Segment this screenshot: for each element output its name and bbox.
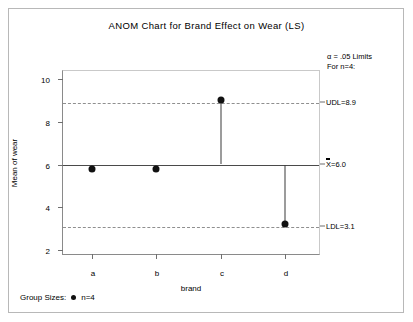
upper-decision-limit-line (63, 103, 319, 104)
x-tick-d: d (285, 254, 286, 259)
y-tick-label-8: 8 (46, 118, 50, 127)
chart-title: ANOM Chart for Brand Effect on Wear (LS) (0, 20, 413, 31)
y-tick-10: 10 (58, 79, 63, 80)
ldl-tickmark (320, 225, 325, 226)
y-tick-8: 8 (58, 122, 63, 123)
y-tick-label-10: 10 (41, 76, 50, 85)
data-point-b (153, 165, 160, 172)
y-tick-label-4: 4 (46, 204, 50, 213)
data-point-d (282, 220, 289, 227)
x-tick-label-a: a (91, 269, 95, 278)
group-size-value: n=4 (81, 293, 95, 302)
udl-tickmark (320, 101, 325, 102)
group-sizes-legend: Group Sizes: n=4 (20, 293, 95, 302)
center-line-value: =6.0 (331, 160, 346, 169)
ldl-label: LDL=3.1 (326, 221, 355, 230)
y-tick-label-2: 2 (46, 247, 50, 256)
y-axis-title: Mean of wear (10, 139, 19, 187)
anom-chart-screenshot: ANOM Chart for Brand Effect on Wear (LS)… (0, 0, 413, 322)
stem-d (285, 165, 286, 224)
alpha-limits-line-1: α = .05 Limits (327, 52, 372, 62)
stem-c (221, 100, 222, 164)
lower-decision-limit-line (63, 227, 319, 228)
y-tick-label-6: 6 (46, 161, 50, 170)
group-size-dot-icon (71, 295, 76, 300)
data-point-c (218, 97, 225, 104)
x-tick-a: a (92, 254, 93, 259)
data-point-a (89, 165, 96, 172)
group-sizes-label: Group Sizes: (20, 293, 66, 302)
alpha-limits-line-2: For n=4: (327, 62, 372, 72)
center-line-tickmark (320, 163, 325, 164)
x-double-bar-glyph: X (326, 159, 331, 169)
x-tick-c: c (221, 254, 222, 259)
udl-label: UDL=8.9 (326, 97, 356, 106)
center-line (63, 165, 319, 166)
center-line-label: X=6.0 (326, 159, 346, 169)
x-tick-label-d: d (284, 269, 288, 278)
x-tick-label-c: c (220, 269, 224, 278)
alpha-limits-annotation: α = .05 Limits For n=4: (327, 52, 372, 72)
x-axis-title: brand (181, 284, 201, 293)
plot-inner: 10 8 6 4 2 a b c (63, 71, 319, 254)
plot-area: 10 8 6 4 2 a b c (62, 70, 320, 255)
y-tick-4: 4 (58, 207, 63, 208)
x-tick-label-b: b (155, 269, 159, 278)
x-tick-b: b (156, 254, 157, 259)
y-tick-2: 2 (58, 250, 63, 251)
